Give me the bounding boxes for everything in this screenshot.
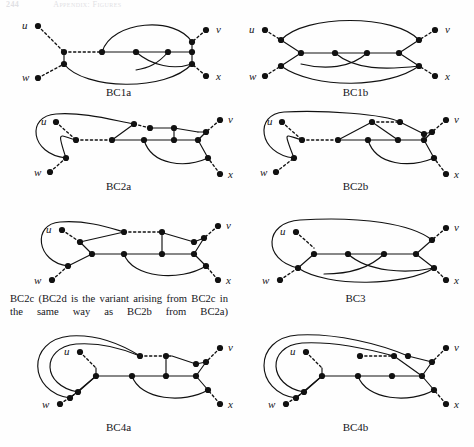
caption-bc3: BC3 — [237, 292, 474, 305]
edge-left-loop — [36, 114, 134, 158]
edge-outer-loop — [38, 336, 140, 398]
node-spine-1 — [319, 373, 325, 379]
node-spine-3 — [163, 373, 169, 379]
node-branch-lower-left — [63, 155, 69, 161]
label-w: w — [268, 398, 276, 410]
edge-upper-left-link — [80, 232, 124, 242]
node-upper-1 — [357, 353, 363, 359]
label-u: u — [280, 225, 286, 237]
node-spine-1 — [109, 137, 115, 143]
node-spine-4 — [191, 251, 197, 257]
label-u: u — [267, 115, 273, 127]
node-branch-upper-right — [201, 235, 207, 241]
label-w: w — [249, 70, 257, 82]
page-folio: 244 — [6, 0, 19, 9]
edge-u-stub — [306, 352, 322, 368]
node-upper-2 — [159, 229, 165, 235]
edge-w-stub — [38, 64, 64, 78]
label-u: u — [249, 23, 255, 35]
figure-bc2b-graph: u v w x — [238, 106, 466, 184]
caption-bc2a: BC2a — [0, 180, 237, 193]
figure-bc1a: u v w x — [8, 14, 236, 86]
node-branch-lower-left — [295, 265, 301, 271]
label-v: v — [454, 221, 459, 233]
edge-lower-arc — [124, 254, 206, 276]
running-head: 244Appendix: Figures — [6, 0, 306, 9]
node-spine-4 — [421, 137, 427, 143]
figure-bc2a: u v w x — [8, 106, 236, 184]
node-v — [217, 117, 223, 123]
label-v: v — [454, 341, 459, 353]
edge-bottom-arc — [281, 66, 419, 83]
figure-bc2b: u v w x — [238, 106, 466, 184]
edge-u-stub — [62, 230, 80, 242]
node-upper-2 — [147, 125, 153, 131]
node-loop-anchor-outer — [293, 395, 299, 401]
edge-upper-to-right — [400, 122, 424, 134]
label-w: w — [34, 274, 42, 286]
label-u: u — [22, 19, 28, 31]
node-x — [443, 401, 449, 407]
edge-right-fan-down — [416, 254, 434, 268]
node-spine-1 — [89, 251, 95, 257]
caption-bc4a: BC4a — [0, 421, 237, 434]
edge-lower-arc — [358, 376, 434, 398]
node-spine-2 — [133, 49, 139, 55]
edge-left-fan-lower — [281, 53, 301, 66]
node-spine-4 — [396, 50, 402, 56]
edge-w-stub — [50, 158, 66, 172]
edge-cross-a — [335, 53, 419, 68]
node-x — [432, 73, 438, 79]
edge-top-arc — [102, 25, 192, 52]
node-u — [53, 119, 59, 125]
figure-bc1a-graph: u v w x — [8, 14, 236, 86]
label-v: v — [216, 23, 221, 35]
edge-u-stub — [296, 232, 314, 248]
node-u — [303, 349, 309, 355]
node-u — [77, 349, 83, 355]
label-x: x — [453, 274, 459, 286]
figure-bc3-graph: u v w x — [244, 212, 468, 290]
edge-u-stub — [38, 26, 64, 52]
node-upper-1 — [137, 353, 143, 359]
label-u: u — [46, 223, 52, 235]
node-branch-lower-right — [416, 63, 422, 69]
edge-lower-left-link — [298, 254, 314, 268]
node-w — [283, 401, 289, 407]
edge-up-to-peak — [112, 124, 134, 140]
node-branch-lower-right — [189, 61, 195, 67]
label-x: x — [227, 168, 233, 180]
node-spine-3 — [395, 137, 401, 143]
node-u — [262, 27, 268, 33]
figure-bc2a-graph: u v w x — [8, 106, 236, 184]
node-upper-right — [421, 131, 427, 137]
node-branch-lower-right — [203, 263, 209, 269]
node-spine-2 — [121, 251, 127, 257]
edge-upper-to-right — [408, 356, 432, 362]
node-upper-1 — [121, 229, 127, 235]
edge-upper-to-right — [174, 128, 198, 132]
figure-page: 244Appendix: Figures — [0, 0, 474, 447]
label-w: w — [42, 398, 50, 410]
node-upper-right — [193, 361, 199, 367]
node-branch-lower-right — [205, 387, 211, 393]
node-branch-lower-left — [65, 263, 71, 269]
label-v: v — [454, 113, 459, 125]
node-spine-4 — [195, 137, 201, 143]
edge-right-fan-up — [416, 240, 432, 254]
node-upper-1 — [131, 121, 137, 127]
node-spine-4 — [189, 49, 195, 55]
node-w — [262, 73, 268, 79]
edge-top-loop — [272, 219, 432, 268]
node-spine-4 — [193, 373, 199, 379]
edge-inner-loop-end — [304, 376, 322, 392]
node-v — [432, 27, 438, 33]
label-w: w — [260, 166, 268, 178]
node-peak-right — [397, 119, 403, 125]
figure-bc2c-graph: u v w x — [14, 212, 240, 290]
edge-left-fan-upper — [281, 40, 301, 53]
edge-w-stub — [280, 268, 298, 280]
node-v — [215, 223, 221, 229]
edge-cross-upper — [136, 52, 168, 70]
label-u: u — [64, 345, 70, 357]
